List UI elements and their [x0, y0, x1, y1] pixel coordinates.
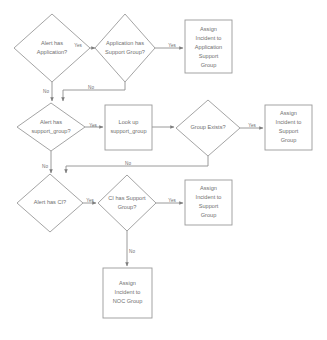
node-label-line: support_group: [110, 128, 146, 134]
node-label-line: Assign: [200, 185, 217, 191]
node-application-has-support-group[interactable]: Application has Support Group?: [95, 14, 155, 82]
node-label-line: Assign: [119, 280, 136, 286]
node-label-line: Support Group?: [105, 49, 145, 55]
node-label-line: Incident to: [276, 119, 302, 125]
node-label-line: Group?: [118, 204, 137, 210]
node-label-line: Alert has: [41, 40, 63, 46]
edge-label-yes: Yes: [248, 123, 256, 128]
node-label-line: Incident to: [196, 35, 222, 41]
node-label-line: CI has Support: [108, 195, 146, 201]
edge-label-yes: Yes: [86, 198, 94, 203]
node-label-line: Assign: [200, 26, 217, 32]
node-label-line: Look up: [119, 119, 139, 125]
node-assign-incident-noc-group[interactable]: Assign Incident to NOC Group: [103, 268, 152, 318]
flowchart-svg: Alert has Application? Application has S…: [0, 0, 327, 340]
edge-label-yes: Yes: [168, 43, 176, 48]
edge-label-no: No: [125, 161, 131, 166]
node-alert-has-ci[interactable]: Alert has CI?: [17, 174, 83, 232]
node-look-up-support-group[interactable]: Look up support_group: [105, 105, 152, 150]
node-assign-incident-application-support-group[interactable]: Assign Incident to Application Support G…: [185, 20, 232, 73]
connector-layer: [51, 48, 263, 266]
node-label-line: Support: [279, 128, 299, 134]
node-label-line: Incident to: [115, 289, 141, 295]
edge-label-no: No: [43, 89, 49, 94]
node-label-line: Application has: [106, 40, 144, 46]
node-label-line: Incident to: [196, 194, 222, 200]
edge-label-no: No: [42, 164, 48, 169]
node-label-line: Group Exists?: [190, 124, 225, 130]
decision-diamond: [98, 175, 156, 231]
edge-label-no: No: [129, 249, 135, 254]
node-label-line: Alert has CI?: [34, 199, 66, 205]
node-label-line: support_group?: [31, 128, 70, 134]
node-label-line: Support: [199, 203, 219, 209]
node-group-exists[interactable]: Group Exists?: [176, 100, 240, 156]
node-alert-has-support-group[interactable]: Alert has support_group?: [17, 103, 85, 151]
edge-group-exists-no-down: [66, 156, 208, 173]
edge-label-yes: Yes: [89, 123, 97, 128]
edge-label-no: No: [88, 85, 94, 90]
node-label-line: Support: [199, 53, 219, 59]
node-label-line: Group: [281, 137, 297, 143]
edge-label-yes: Yes: [168, 198, 176, 203]
node-assign-incident-support-group-row3[interactable]: Assign Incident to Support Group: [185, 180, 232, 225]
node-label-line: Application: [195, 44, 222, 50]
node-label-line: Alert has: [40, 119, 62, 125]
flowchart-canvas: Alert has Application? Application has S…: [0, 0, 327, 340]
node-label-line: Application?: [37, 49, 67, 55]
decision-diamond: [95, 14, 155, 82]
node-label-line: NOC Group: [113, 298, 143, 304]
node-label-line: Assign: [280, 110, 297, 116]
node-label-line: Group: [201, 212, 217, 218]
decision-diamond: [17, 103, 85, 151]
edge-label-yes: Yes: [74, 43, 82, 48]
node-ci-has-support-group[interactable]: CI has Support Group?: [98, 175, 156, 231]
node-label-line: Group: [201, 62, 217, 68]
edge-app-sg-no-down: [63, 82, 125, 101]
node-assign-incident-support-group-row2[interactable]: Assign Incident to Support Group: [265, 105, 312, 150]
